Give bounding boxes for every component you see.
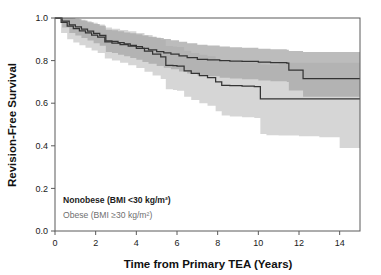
y-tick-label: 0.6 — [35, 98, 48, 108]
x-tick-label: 2 — [93, 238, 98, 248]
x-tick-label: 8 — [215, 238, 220, 248]
legend-label-nonobese: Nonobese (BMI <30 kg/m²) — [63, 195, 171, 205]
figure-survival-chart: 024681012140.00.20.40.60.81.0 Revision-F… — [0, 0, 381, 275]
x-tick-label: 6 — [174, 238, 179, 248]
legend-label-obese: Obese (BMI ≥30 kg/m²) — [63, 210, 152, 220]
x-tick-label: 4 — [134, 238, 139, 248]
y-tick-label: 0.4 — [35, 141, 48, 151]
y-tick-label: 0.2 — [35, 184, 48, 194]
chart-canvas: 024681012140.00.20.40.60.81.0 Revision-F… — [0, 0, 381, 275]
y-tick-label: 0.8 — [35, 56, 48, 66]
y-axis-title: Revision-Free Survival — [6, 63, 18, 187]
x-tick-label: 10 — [253, 238, 263, 248]
x-axis-title: Time from Primary TEA (Years) — [124, 258, 293, 270]
x-tick-label: 14 — [335, 238, 345, 248]
x-tick-label: 12 — [294, 238, 304, 248]
y-tick-label: 1.0 — [35, 13, 48, 23]
x-tick-label: 0 — [52, 238, 57, 248]
y-tick-label: 0.0 — [35, 226, 48, 236]
